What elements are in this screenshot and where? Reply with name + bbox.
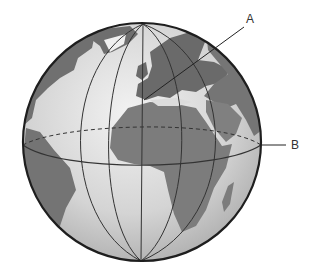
label-a: A: [246, 13, 254, 25]
globe-diagram: [0, 0, 316, 279]
label-b: B: [291, 139, 299, 151]
